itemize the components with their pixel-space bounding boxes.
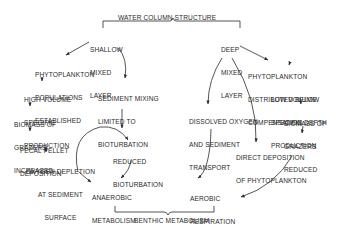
line: LOW VOLUME — [271, 96, 317, 104]
line: RESPIRATION — [190, 218, 243, 226]
line: REDUCED — [113, 158, 163, 166]
header-text: WATER COLUMN STRUCTURE — [118, 14, 216, 22]
line: OF PHYTOPLANKTON — [236, 177, 307, 185]
line: LAYER — [221, 92, 243, 100]
line: PHYTOPLANKTON — [248, 73, 327, 81]
line: BIOMASS OF — [284, 120, 326, 128]
node-deep-mixed-layer: DEEP MIXED LAYER — [221, 31, 243, 115]
header-water-column-structure: WATER COLUMN STRUCTURE — [118, 14, 216, 22]
line: DEEP — [221, 46, 243, 54]
line: SHALLOW — [90, 46, 123, 54]
line: DISSOLVED OXYGEN — [189, 118, 258, 126]
line: PHYTOPLANKTON — [35, 71, 94, 79]
node-aerobic-respiration: AEROBIC RESPIRATION PREDOMINATES — [190, 180, 243, 232]
line: SEDIMENT MIXING — [98, 95, 159, 103]
node-oxygen-depletion: OXYGEN DEPLETION AT SEDIMENT SURFACE — [26, 153, 95, 232]
benthic-metabolism-flow-diagram: WATER COLUMN STRUCTURE BENTHIC METABOLIS… — [0, 0, 338, 232]
node-anaerobic-metabolism: ANAEROBIC METABOLISM PREDOMINATES — [92, 179, 145, 232]
line: MIXED — [90, 69, 123, 77]
line: LIMITED TO — [98, 118, 159, 126]
node-direct-deposition: DIRECT DEPOSITION OF PHYTOPLANKTON — [236, 139, 307, 200]
line: OXYGEN DEPLETION — [26, 168, 95, 176]
line: ANAEROBIC — [92, 194, 145, 202]
line: BIOMASS OF — [14, 121, 56, 129]
line: HIGH VOLUME — [24, 96, 71, 104]
line: METABOLISM — [92, 217, 145, 225]
line: SURFACE — [26, 214, 95, 222]
line: DIRECT DEPOSITION — [236, 154, 307, 162]
line: MIXED — [221, 69, 243, 77]
line: AEROBIC — [190, 195, 243, 203]
line: AT SEDIMENT — [26, 191, 95, 199]
